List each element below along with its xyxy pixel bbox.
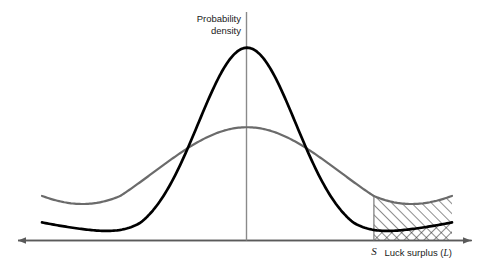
chart-canvas: Probability density S Luck surplus (L) (0, 0, 489, 269)
y-axis-label-line2: density (211, 25, 241, 36)
threshold-tick-label: S (371, 245, 377, 257)
shaded-regions (374, 196, 452, 241)
probability-density-figure: Probability density S Luck surplus (L) (0, 0, 489, 269)
x-axis-label: Luck surplus (L) (384, 247, 452, 258)
y-axis-label-line1: Probability (197, 13, 242, 24)
x-axis-label-plain: Luck surplus (384, 247, 438, 258)
